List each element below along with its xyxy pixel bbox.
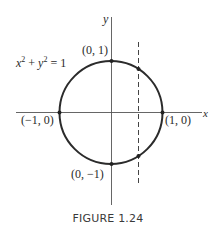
point-0-neg1 <box>110 162 114 166</box>
intersection-upper <box>137 67 141 71</box>
eq-rhs: = 1 <box>50 56 66 70</box>
label-point-1-0: (1, 0) <box>165 114 191 126</box>
eq-plus: + <box>28 56 35 70</box>
point-1-0 <box>161 111 165 115</box>
intersection-lower <box>137 154 141 158</box>
label-point-0-1: (0, 1) <box>82 44 108 56</box>
label-point-0-neg1: (0, −1) <box>71 168 104 180</box>
eq-exp1: 2 <box>21 55 25 64</box>
unit-circle-figure: y x x2 + y2 = 1 (0, 1) (1, 0) (0, −1) (−… <box>0 0 216 228</box>
x-axis-label: x <box>203 108 208 119</box>
figure-caption: FIGURE 1.24 <box>0 212 216 225</box>
point-neg1-0 <box>58 111 62 115</box>
point-0-1 <box>110 59 114 63</box>
y-axis-label: y <box>103 13 108 25</box>
eq-exp2: 2 <box>43 55 47 64</box>
circle-equation: x2 + y2 = 1 <box>16 57 66 69</box>
label-point-neg1-0: (−1, 0) <box>21 114 54 126</box>
